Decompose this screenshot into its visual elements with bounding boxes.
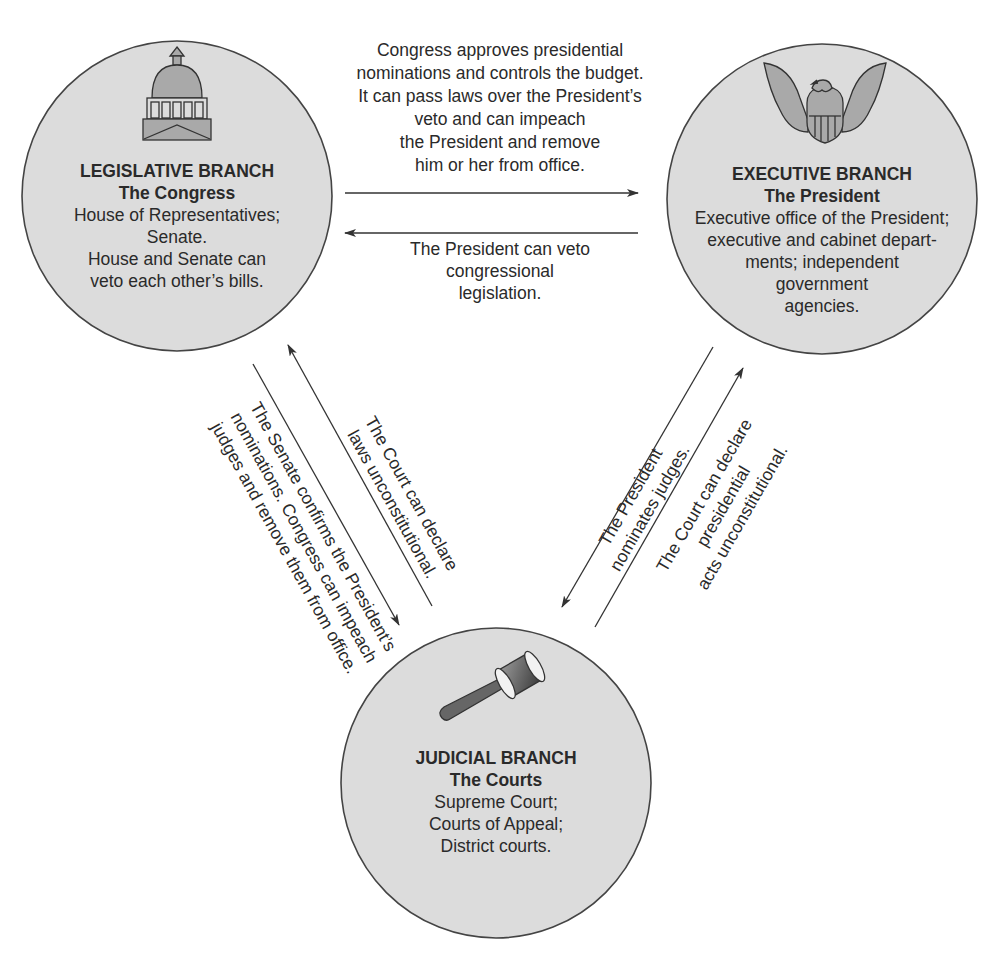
caption-line: Congress approves presidential xyxy=(330,39,670,62)
executive-line: Executive office of the President; xyxy=(667,207,977,229)
judicial-line: Courts of Appeal; xyxy=(346,813,646,835)
judicial-title: JUDICIAL BRANCH xyxy=(346,747,646,769)
legislative-line: House of Representatives; xyxy=(27,204,327,226)
executive-line: agencies. xyxy=(667,295,977,317)
caption-president-to-congress: The President can veto congressional leg… xyxy=(330,238,670,304)
executive-title: EXECUTIVE BRANCH xyxy=(667,163,977,185)
judicial-subtitle: The Courts xyxy=(346,769,646,791)
caption-line: legislation. xyxy=(330,282,670,304)
legislative-branch-label: LEGISLATIVE BRANCH The Congress House of… xyxy=(27,160,327,292)
legislative-title: LEGISLATIVE BRANCH xyxy=(27,160,327,182)
caption-line: veto and can impeach xyxy=(330,108,670,131)
judicial-branch-label: JUDICIAL BRANCH The Courts Supreme Court… xyxy=(346,747,646,857)
caption-line: him or her from office. xyxy=(330,154,670,177)
executive-line: ments; independent xyxy=(667,251,977,273)
executive-line: executive and cabinet depart- xyxy=(667,229,977,251)
legislative-line: House and Senate can xyxy=(27,248,327,270)
executive-line: government xyxy=(667,273,977,295)
caption-line: It can pass laws over the President’s xyxy=(330,85,670,108)
caption-line: nominations and controls the budget. xyxy=(330,62,670,85)
executive-branch-label: EXECUTIVE BRANCH The President Executive… xyxy=(667,163,977,317)
caption-line: The President can veto xyxy=(330,238,670,260)
legislative-subtitle: The Congress xyxy=(27,182,327,204)
judicial-line: Supreme Court; xyxy=(346,791,646,813)
legislative-line: Senate. xyxy=(27,226,327,248)
judicial-line: District courts. xyxy=(346,835,646,857)
legislative-line: veto each other’s bills. xyxy=(27,270,327,292)
caption-line: the President and remove xyxy=(330,131,670,154)
caption-congress-to-president: Congress approves presidential nominatio… xyxy=(330,39,670,177)
executive-subtitle: The President xyxy=(667,185,977,207)
caption-line: congressional xyxy=(330,260,670,282)
